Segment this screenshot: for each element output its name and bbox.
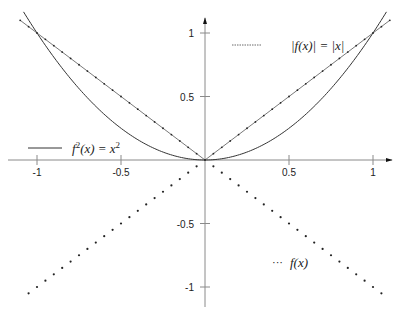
fx-dot (280, 216, 282, 218)
x-axis-ticks: -1-0.50.51 (33, 155, 377, 178)
y-tick-label: 0.5 (180, 92, 194, 103)
fx-dot (246, 191, 248, 193)
abs-dot (53, 45, 55, 47)
fx-dot (103, 235, 105, 237)
x-tick-label: 0.5 (282, 167, 296, 178)
fx-dot (128, 216, 130, 218)
abs-dot (238, 134, 240, 136)
fx-dot (187, 172, 189, 174)
abs-dot (255, 121, 257, 123)
abs-dot (36, 32, 38, 34)
abs-dot (322, 70, 324, 72)
abs-dot (103, 83, 105, 85)
fx-dot (229, 178, 231, 180)
fx-dot (112, 229, 114, 231)
abs-dot (372, 32, 374, 34)
fx-dot (380, 292, 382, 294)
abs-dot (187, 146, 189, 148)
abs-dot (229, 140, 231, 142)
legend-square-sup2: 2 (116, 140, 121, 150)
fx-dot (162, 191, 164, 193)
y-tick-label: 1 (188, 28, 194, 39)
y-tick-label: -0.5 (177, 219, 195, 230)
fx-dot (170, 184, 172, 186)
fx-dot (179, 178, 181, 180)
abs-dot (297, 89, 299, 91)
fx-dot (271, 210, 273, 212)
fx-dot (145, 203, 147, 205)
fx-dot (288, 222, 290, 224)
fx-dot (70, 261, 72, 263)
fx-dot (53, 273, 55, 275)
abs-dot (70, 58, 72, 60)
legend-swatch-dotted: ··· (272, 256, 283, 268)
abs-dot (339, 58, 341, 60)
x-tick-label: 1 (370, 167, 376, 178)
abs-dot (87, 70, 89, 72)
abs-dot (364, 38, 366, 40)
abs-dot (120, 96, 122, 98)
fx-dot (196, 165, 198, 167)
fx-dot (296, 229, 298, 231)
fx-dot (86, 248, 88, 250)
legend-label-square: f2(x) = x2 (72, 140, 120, 156)
fx-dot (254, 197, 256, 199)
legend-item-fx: ··· f(x) (272, 255, 308, 270)
fx-dot (355, 273, 357, 275)
abs-dot (271, 108, 273, 110)
legend-item-abs: |f(x)| = |x| (232, 38, 344, 53)
abs-dot (330, 64, 332, 66)
axes (8, 18, 392, 307)
fx-dot (338, 261, 340, 263)
fx-dot (78, 254, 80, 256)
fx-dot (61, 267, 63, 269)
legend-square-mid: (x) = x (80, 141, 116, 156)
fx-dot (44, 280, 46, 282)
legend-item-square: f2(x) = x2 (28, 140, 120, 156)
plot-area: -1-0.50.51 10.5-0.5-1 |f(x)| = |x| f2(x)… (0, 0, 409, 319)
abs-dot (129, 102, 131, 104)
abs-dot (162, 127, 164, 129)
abs-dot (196, 153, 198, 155)
abs-dot (313, 77, 315, 79)
abs-dot (78, 64, 80, 66)
fx-dot (313, 241, 315, 243)
abs-dot (213, 153, 215, 155)
abs-dot (347, 51, 349, 53)
fx-dot (330, 254, 332, 256)
fx-dot (221, 172, 223, 174)
legend-label-fx: f(x) (290, 255, 308, 270)
fx-dot (154, 197, 156, 199)
abs-dot (171, 134, 173, 136)
abs-dot (280, 102, 282, 104)
abs-dot (381, 26, 383, 28)
abs-dot (389, 19, 391, 21)
abs-dot (221, 146, 223, 148)
fx-dot (364, 280, 366, 282)
abs-dot (28, 26, 30, 28)
fx-dot (372, 286, 374, 288)
abs-dot (355, 45, 357, 47)
abs-dot (95, 77, 97, 79)
abs-dot (112, 89, 114, 91)
x-tick-label: -0.5 (112, 167, 130, 178)
abs-dot (246, 127, 248, 129)
abs-dot (137, 108, 139, 110)
abs-dot (145, 115, 147, 117)
fx-dot (120, 222, 122, 224)
fx-dot (305, 235, 307, 237)
y-tick-label: -1 (185, 282, 194, 293)
abs-dot (154, 121, 156, 123)
fx-dot (347, 267, 349, 269)
legend-label-abs: |f(x)| = |x| (291, 38, 344, 53)
fx-dot (28, 292, 30, 294)
abs-dot (61, 51, 63, 53)
fx-dot (238, 184, 240, 186)
fx-dot (36, 286, 38, 288)
fx-dot (322, 248, 324, 250)
abs-dot (45, 38, 47, 40)
abs-dot (305, 83, 307, 85)
fx-dot (212, 165, 214, 167)
fx-dot (95, 241, 97, 243)
fx-dot (137, 210, 139, 212)
